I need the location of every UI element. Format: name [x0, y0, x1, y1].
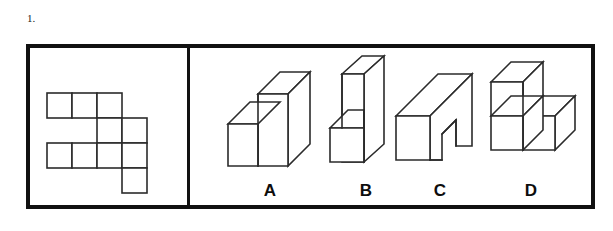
flat-pattern-net [30, 48, 187, 205]
answer-option-a-label: A [220, 181, 320, 201]
answer-option-a[interactable]: A [220, 50, 320, 205]
net-cell [97, 118, 122, 143]
answer-option-d-label: D [481, 181, 581, 201]
net-cell [47, 143, 72, 168]
net-cell [47, 93, 72, 118]
exercise-frame: A B [26, 44, 595, 209]
question-number: 1. [27, 12, 35, 24]
figure-c-notched-block [390, 54, 490, 176]
figure-a-l-shaped-step-block [220, 56, 320, 176]
answer-option-c-label: C [390, 181, 490, 201]
answer-option-d[interactable]: D [481, 50, 581, 205]
figure-d-three-cube-l-arrangement [481, 54, 581, 176]
answer-option-c[interactable]: C [390, 50, 490, 205]
net-cell [122, 118, 147, 143]
net-cell [122, 143, 147, 168]
net-cell [72, 143, 97, 168]
net-cell [122, 168, 147, 193]
net-cell [97, 93, 122, 118]
net-cell [97, 143, 122, 168]
net-cell [72, 93, 97, 118]
flat-pattern-panel [30, 48, 187, 205]
answer-options-panel: A B [190, 48, 591, 205]
